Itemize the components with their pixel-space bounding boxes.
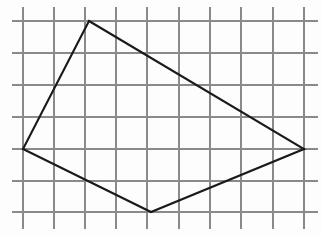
- vertex-marker-left: [22, 148, 24, 150]
- vertex-marker-top: [88, 20, 90, 22]
- vertex-marker-bottom: [150, 211, 152, 213]
- grid-and-shape-svg: [0, 0, 322, 235]
- figure-canvas: [0, 0, 322, 235]
- vertex-marker-right: [303, 148, 305, 150]
